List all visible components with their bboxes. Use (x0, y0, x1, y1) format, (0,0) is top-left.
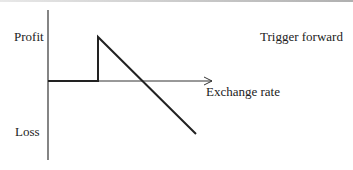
payoff-diagram (0, 0, 353, 170)
payoff-line (48, 37, 196, 134)
x-axis-label: Exchange rate (206, 84, 280, 100)
profit-label: Profit (14, 29, 44, 45)
loss-label: Loss (15, 124, 40, 140)
diagram-title: Trigger forward (260, 29, 343, 45)
